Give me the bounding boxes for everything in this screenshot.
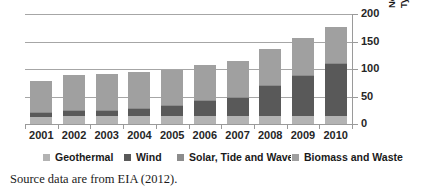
value-axis-title-line2: Type (Billion kWh) <box>398 0 410 8</box>
bar-segment-solar-tide-and-wave-2009[interactable] <box>292 75 314 76</box>
bar-segment-geothermal-2001[interactable] <box>30 117 52 124</box>
bar-segment-wind-2002[interactable] <box>63 111 85 117</box>
category-tick-mark-3 <box>123 125 124 129</box>
category-label-2002: 2002 <box>58 129 91 142</box>
legend-swatch-icon <box>176 153 185 162</box>
bar-segment-biomass-and-waste-2001[interactable] <box>30 81 52 112</box>
bar-2003[interactable] <box>96 74 118 124</box>
value-tick-mark-150 <box>352 42 358 43</box>
bar-2007[interactable] <box>227 61 249 124</box>
value-tick-label-150: 150 <box>361 36 379 47</box>
bar-segment-geothermal-2007[interactable] <box>227 116 249 124</box>
bar-2002[interactable] <box>63 75 85 125</box>
figure: 050100150200 200120022003200420052006200… <box>0 0 432 195</box>
figure-caption: Source data are from EIA (2012). <box>10 172 177 187</box>
bar-segment-wind-2006[interactable] <box>194 101 216 116</box>
value-tick-label-200: 200 <box>361 8 379 19</box>
bar-segment-geothermal-2010[interactable] <box>325 116 347 124</box>
value-tick-label-100: 100 <box>361 63 379 74</box>
bar-segment-solar-tide-and-wave-2006[interactable] <box>194 100 216 101</box>
category-label-2009: 2009 <box>286 129 319 142</box>
bar-segment-wind-2004[interactable] <box>128 108 150 116</box>
category-tick-mark-1 <box>58 125 59 129</box>
bar-segment-solar-tide-and-wave-2001[interactable] <box>30 112 52 113</box>
legend-label: Geothermal <box>55 152 113 163</box>
bar-segment-geothermal-2005[interactable] <box>161 116 183 124</box>
chart-legend: GeothermalWindSolar, Tide and WaveBiomas… <box>0 149 432 165</box>
bar-segment-wind-2003[interactable] <box>96 110 118 116</box>
legend-label: Wind <box>136 152 162 163</box>
bar-segment-geothermal-2006[interactable] <box>194 116 216 124</box>
value-tick-mark-50 <box>352 97 358 98</box>
category-tick-mark-5 <box>189 125 190 129</box>
legend-swatch-icon <box>123 153 132 162</box>
bar-segment-biomass-and-waste-2004[interactable] <box>128 72 150 107</box>
legend-item-biomass-and-waste[interactable]: Biomass and Waste <box>291 149 403 165</box>
legend-item-geothermal[interactable]: Geothermal <box>42 149 113 165</box>
bar-segment-biomass-and-waste-2003[interactable] <box>96 74 118 110</box>
bar-segment-solar-tide-and-wave-2008[interactable] <box>259 85 281 86</box>
category-label-2003: 2003 <box>90 129 123 142</box>
bar-2001[interactable] <box>30 81 52 124</box>
bar-segment-solar-tide-and-wave-2003[interactable] <box>96 110 118 111</box>
category-tick-mark-2 <box>90 125 91 129</box>
chart-plot-area: 050100150200 200120022003200420052006200… <box>0 0 432 147</box>
bar-segment-wind-2010[interactable] <box>325 64 347 116</box>
value-axis-title-line1: Non-hydroGeneration by <box>386 0 398 8</box>
value-tick-mark-100 <box>352 69 358 70</box>
value-tick-label-0: 0 <box>361 118 367 129</box>
category-label-2007: 2007 <box>221 129 254 142</box>
legend-swatch-icon <box>42 153 51 162</box>
category-tick-mark-10 <box>352 125 353 129</box>
value-tick-label-50: 50 <box>361 91 373 102</box>
bar-segment-geothermal-2003[interactable] <box>96 116 118 124</box>
bars-group <box>25 14 352 124</box>
category-tick-mark-7 <box>254 125 255 129</box>
legend-label: Solar, Tide and Wave <box>189 152 293 163</box>
bar-2009[interactable] <box>292 38 314 124</box>
bar-segment-wind-2001[interactable] <box>30 113 52 117</box>
bar-segment-wind-2007[interactable] <box>227 97 249 116</box>
category-label-2010: 2010 <box>319 129 352 142</box>
bar-segment-biomass-and-waste-2006[interactable] <box>194 65 216 100</box>
bar-segment-wind-2008[interactable] <box>259 86 281 116</box>
value-axis-title: Non-hydroGeneration by Type (Billion kWh… <box>386 0 426 8</box>
bar-2006[interactable] <box>194 65 216 124</box>
bar-2004[interactable] <box>128 72 150 124</box>
bar-segment-wind-2009[interactable] <box>292 75 314 116</box>
category-tick-mark-6 <box>221 125 222 129</box>
legend-item-wind[interactable]: Wind <box>123 149 162 165</box>
category-tick-mark-9 <box>319 125 320 129</box>
bar-segment-biomass-and-waste-2005[interactable] <box>161 70 183 106</box>
bar-segment-wind-2005[interactable] <box>161 106 183 116</box>
bar-segment-solar-tide-and-wave-2002[interactable] <box>63 110 85 111</box>
category-tick-mark-0 <box>25 125 26 129</box>
bar-segment-solar-tide-and-wave-2010[interactable] <box>325 63 347 64</box>
bar-segment-biomass-and-waste-2008[interactable] <box>259 49 281 85</box>
category-label-2005: 2005 <box>156 129 189 142</box>
bar-segment-biomass-and-waste-2010[interactable] <box>325 27 347 63</box>
legend-label: Biomass and Waste <box>304 152 403 163</box>
bar-segment-solar-tide-and-wave-2007[interactable] <box>227 97 249 98</box>
bar-segment-geothermal-2009[interactable] <box>292 116 314 124</box>
category-tick-mark-8 <box>287 125 288 129</box>
bar-2008[interactable] <box>259 49 281 124</box>
legend-item-solar-tide-and-wave[interactable]: Solar, Tide and Wave <box>176 149 293 165</box>
bar-segment-geothermal-2002[interactable] <box>63 116 85 124</box>
category-label-2004: 2004 <box>123 129 156 142</box>
bar-segment-geothermal-2008[interactable] <box>259 116 281 124</box>
bar-segment-biomass-and-waste-2002[interactable] <box>63 75 85 111</box>
category-tick-mark-4 <box>156 125 157 129</box>
bar-2010[interactable] <box>325 27 347 124</box>
value-tick-mark-200 <box>352 14 358 15</box>
category-label-2006: 2006 <box>188 129 221 142</box>
bar-segment-solar-tide-and-wave-2005[interactable] <box>161 105 183 106</box>
category-label-2001: 2001 <box>25 129 58 142</box>
bar-segment-biomass-and-waste-2007[interactable] <box>227 61 249 96</box>
bar-segment-biomass-and-waste-2009[interactable] <box>292 38 314 75</box>
category-label-2008: 2008 <box>254 129 287 142</box>
legend-swatch-icon <box>291 153 300 162</box>
bar-segment-solar-tide-and-wave-2004[interactable] <box>128 108 150 109</box>
bar-2005[interactable] <box>161 70 183 124</box>
bar-segment-geothermal-2004[interactable] <box>128 116 150 124</box>
